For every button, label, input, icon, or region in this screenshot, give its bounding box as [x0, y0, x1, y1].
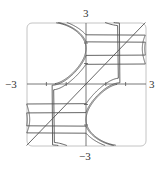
y-min-label: −3: [79, 151, 91, 162]
x-min-label: −3: [5, 79, 17, 90]
level-curve: [86, 84, 117, 145]
level-curve: [55, 23, 86, 84]
contour-plot: [0, 0, 162, 169]
y-max-label: 3: [83, 8, 89, 19]
x-max-label: 3: [149, 79, 155, 90]
